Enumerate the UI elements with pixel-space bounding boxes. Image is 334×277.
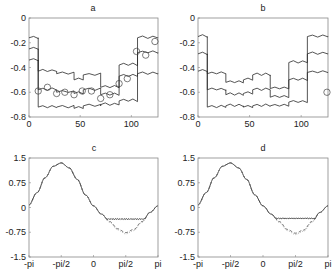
x-tick-label: -pi [193, 259, 203, 269]
x-tick-label: 100 [124, 119, 139, 129]
series-line-upper [198, 35, 328, 89]
y-tick-label: -0.8 [10, 112, 26, 122]
y-tick-label: -0.8 [179, 112, 195, 122]
series-line-dotted [29, 163, 158, 234]
x-tick-label: -pi [24, 259, 34, 269]
y-tick-label: 0 [21, 203, 26, 213]
circle-marker [152, 38, 158, 44]
y-tick-label: -0.2 [179, 38, 195, 48]
circle-marker [143, 52, 149, 58]
x-tick-label: 0 [260, 259, 265, 269]
x-tick-label: -pi/2 [52, 259, 70, 269]
y-tick-label: -0.6 [10, 87, 26, 97]
x-tick-label: pi/2 [288, 259, 303, 269]
circle-marker [44, 84, 50, 90]
panel-a: a 0-0.2-0.4-0.6-0.8050100 [10, 3, 158, 129]
y-tick-label: -0.4 [10, 63, 26, 73]
x-tick-label: pi/2 [118, 259, 133, 269]
x-tick-label: 0 [195, 119, 200, 129]
x-tick-label: 0 [91, 259, 96, 269]
panel-title: c [92, 143, 97, 153]
series-line-upper [29, 36, 158, 88]
y-tick-label: 0 [21, 13, 26, 23]
axes-frame [29, 18, 158, 117]
series-line-solid [198, 163, 328, 219]
x-tick-label: pi [154, 259, 161, 269]
circle-marker [133, 48, 139, 54]
y-tick-label: 0 [190, 203, 195, 213]
series-line-dotted [198, 163, 328, 235]
y-tick-label: -0.75 [5, 227, 26, 237]
series-line-solid [29, 163, 158, 220]
x-tick-label: pi [324, 259, 331, 269]
series-line-lower [198, 70, 328, 108]
y-tick-label: 1.5 [13, 153, 26, 163]
axes-frame [198, 18, 328, 117]
y-tick-label: -0.4 [179, 63, 195, 73]
y-tick-label: 1.5 [182, 153, 195, 163]
x-tick-label: 0 [26, 119, 31, 129]
x-tick-label: -pi/2 [222, 259, 240, 269]
panel-b: b 0-0.2-0.4-0.6-0.8050100 [179, 3, 330, 129]
circle-marker [324, 89, 330, 95]
y-tick-label: 0.75 [8, 178, 26, 188]
y-tick-label: 0.75 [177, 178, 195, 188]
y-tick-label: -0.75 [174, 227, 195, 237]
panel-title: b [260, 3, 265, 13]
y-tick-label: -0.6 [179, 87, 195, 97]
y-tick-label: -0.2 [10, 38, 26, 48]
x-tick-label: 100 [294, 119, 309, 129]
series-line-lower [29, 59, 158, 109]
circle-marker [97, 95, 103, 101]
panel-title: a [90, 3, 95, 13]
panel-c: c 1.50.750-0.75-1.5-pi-pi/20pi/2pi [5, 143, 161, 269]
x-tick-label: 50 [245, 119, 255, 129]
panel-title: d [260, 143, 265, 153]
y-tick-label: 0 [190, 13, 195, 23]
figure: a 0-0.2-0.4-0.6-0.8050100 b 0-0.2-0.4-0.… [0, 0, 334, 277]
x-tick-label: 50 [75, 119, 85, 129]
panel-d: d 1.50.750-0.75-1.5-pi-pi/20pi/2pi [174, 143, 331, 269]
